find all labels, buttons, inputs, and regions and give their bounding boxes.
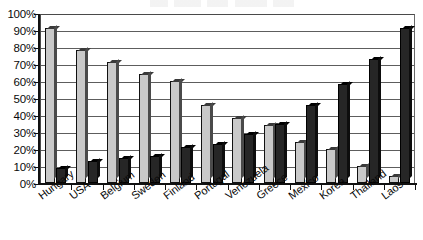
y-axis-tick-label: 40% [14, 110, 36, 122]
y-axis-tick-label: 30% [14, 127, 36, 139]
bar-light-finland [170, 81, 180, 183]
x-axis-tick-mark [384, 185, 385, 190]
bar-side-face [409, 25, 412, 179]
bar-side-face [315, 102, 318, 179]
y-axis-tick-mark [34, 65, 40, 66]
bar-dark-usa [88, 161, 98, 183]
x-axis-tick-mark [415, 185, 416, 190]
bar-side-face [54, 25, 57, 179]
bar-dark-korea [338, 84, 348, 183]
y-axis-labels: 100%90%80%70%60%50%40%30%20%10%0% [0, 8, 36, 184]
y-axis-tick-label: 10% [14, 161, 36, 173]
y-axis-tick-mark [34, 99, 40, 100]
chart-title-cropped [150, 0, 300, 7]
gridline [41, 31, 414, 32]
y-axis-tick-mark [34, 14, 40, 15]
x-axis-labels: HungaryUSABelgiumSwedenFinlandPortugalVe… [0, 186, 423, 240]
plot-area [40, 14, 415, 184]
x-axis-tick-mark [228, 185, 229, 190]
x-axis-tick-mark [134, 185, 135, 190]
gridline [41, 48, 414, 49]
y-axis-tick-label: 90% [14, 25, 36, 37]
bar-dark-thailand [369, 59, 379, 183]
bar-side-face [284, 121, 287, 180]
y-axis-tick-mark [34, 48, 40, 49]
y-axis-tick-label: 70% [14, 59, 36, 71]
bar-side-face [347, 81, 350, 179]
gridline [41, 99, 414, 100]
y-axis-tick-mark [34, 82, 40, 83]
y-axis-tick-mark [34, 133, 40, 134]
y-axis-tick-mark [34, 184, 40, 185]
x-axis-tick-mark [196, 185, 197, 190]
gridline [41, 150, 414, 151]
bar-side-face [97, 158, 100, 179]
y-axis-tick-label: 80% [14, 42, 36, 54]
x-axis-tick-mark [321, 185, 322, 190]
bar-light-sweden [139, 74, 149, 183]
bar-light-mexico [295, 142, 305, 183]
x-axis-tick-mark [71, 185, 72, 190]
y-axis-tick-mark [34, 116, 40, 117]
x-axis-tick-mark [353, 185, 354, 190]
bar-light-hungary [45, 28, 55, 183]
gridline [41, 133, 414, 134]
gridline [41, 116, 414, 117]
y-axis-tick-label: 100% [7, 8, 36, 20]
bar-light-belgium [107, 62, 117, 183]
x-axis-tick-mark [103, 185, 104, 190]
y-axis-tick-label: 20% [14, 144, 36, 156]
bar-chart: 100%90%80%70%60%50%40%30%20%10%0% Hungar… [0, 0, 423, 240]
y-axis-tick-mark [34, 167, 40, 168]
y-axis-tick-mark [34, 150, 40, 151]
x-axis-tick-mark [259, 185, 260, 190]
x-axis-tick-mark [290, 185, 291, 190]
bar-light-portugal [201, 105, 211, 183]
bar-side-face [85, 47, 88, 179]
y-axis-tick-mark [34, 31, 40, 32]
bar-light-usa [76, 50, 86, 183]
y-axis-tick-label: 50% [14, 93, 36, 105]
gridline [41, 65, 414, 66]
bar-light-venezuela [232, 118, 242, 183]
x-axis-tick-mark [165, 185, 166, 190]
y-axis-tick-label: 60% [14, 76, 36, 88]
bar-side-face [378, 56, 381, 179]
bar-dark-laos [400, 28, 410, 183]
gridline [41, 82, 414, 83]
